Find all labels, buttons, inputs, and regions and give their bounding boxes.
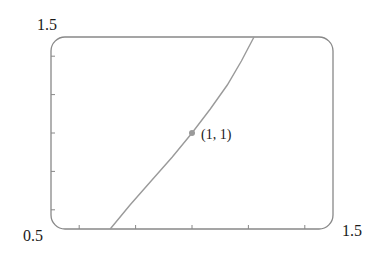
axis-ticks	[51, 56, 305, 229]
x-max-label: 1.5	[342, 222, 362, 239]
point-marker	[189, 130, 195, 136]
chart: (1, 1) 1.5 0.5 1.5	[0, 0, 379, 269]
point-label: (1, 1)	[201, 127, 232, 143]
curve-line	[110, 37, 254, 229]
origin-label: 0.5	[23, 227, 43, 244]
y-max-label: 1.5	[37, 16, 57, 33]
